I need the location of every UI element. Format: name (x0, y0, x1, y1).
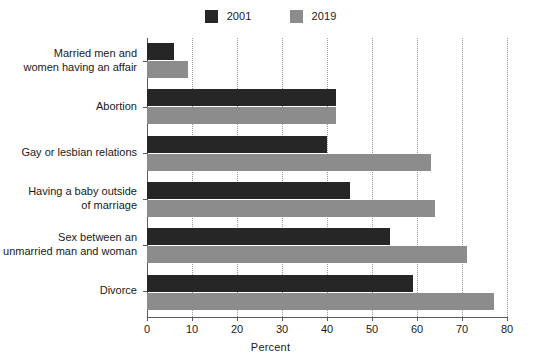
legend-item-2001: 2001 (205, 10, 252, 23)
x-axis-title: Percent (0, 341, 541, 353)
x-axis-tick-20 (237, 317, 238, 321)
x-axis-tick-10 (192, 317, 193, 321)
legend-label-2001: 2001 (227, 10, 252, 23)
y-axis-label-3-line-1: of marriage (0, 199, 137, 213)
x-axis-tick-60 (417, 317, 418, 321)
y-axis-label-0-line-1: women having an affair (0, 61, 137, 75)
legend-swatch-2001 (205, 10, 218, 23)
bar-2019 (147, 246, 467, 263)
y-axis-label-2-line-0: Gay or lesbian relations (0, 146, 137, 160)
y-axis-label-2: Gay or lesbian relations (0, 146, 137, 160)
x-axis-tick-30 (282, 317, 283, 321)
bar-2019 (147, 200, 435, 217)
y-axis-label-4-line-1: unmarried man and woman (0, 245, 137, 259)
x-axis-tick-80 (507, 317, 508, 321)
legend-label-2019: 2019 (312, 10, 337, 23)
y-axis-label-3: Having a baby outside of marriage (0, 185, 137, 212)
x-axis-tick-label-20: 20 (217, 323, 257, 336)
bar-2019 (147, 293, 494, 310)
legend-item-2019: 2019 (290, 10, 337, 23)
plot-area (147, 38, 507, 316)
y-axis-label-5-line-0: Divorce (0, 284, 137, 298)
bar-2019 (147, 61, 188, 78)
y-axis-label-0: Married men and women having an affair (0, 47, 137, 74)
x-axis-tick-label-40: 40 (307, 323, 347, 336)
bar-group (147, 43, 507, 79)
y-axis-label-3-line-0: Having a baby outside (0, 185, 137, 199)
bar-2019 (147, 154, 431, 171)
x-axis-tick-label-30: 30 (262, 323, 302, 336)
x-axis-tick-50 (372, 317, 373, 321)
y-axis-label-0-line-0: Married men and (0, 47, 137, 61)
y-axis-label-4-line-0: Sex between an (0, 231, 137, 245)
x-axis-tick-0 (147, 317, 148, 321)
bar-2001 (147, 136, 327, 153)
y-axis-label-1: Abortion (0, 100, 137, 114)
bar-2001 (147, 275, 413, 292)
chart-legend: 2001 2019 (0, 10, 541, 23)
x-axis-tick-70 (462, 317, 463, 321)
y-axis-labels: Married men and women having an affair A… (0, 38, 143, 317)
y-axis-label-1-line-0: Abortion (0, 100, 137, 114)
legend-swatch-2019 (290, 10, 303, 23)
x-axis-tick-label-50: 50 (352, 323, 392, 336)
bar-group (147, 182, 507, 218)
x-axis-tick-40 (327, 317, 328, 321)
y-axis-label-4: Sex between an unmarried man and woman (0, 231, 137, 258)
y-axis-label-5: Divorce (0, 284, 137, 298)
bar-group (147, 275, 507, 311)
x-axis-tick-label-70: 70 (442, 323, 482, 336)
bar-2001 (147, 182, 350, 199)
x-axis-tick-label-10: 10 (172, 323, 212, 336)
bar-2001 (147, 228, 390, 245)
bar-group (147, 89, 507, 125)
x-axis-tick-label-80: 80 (487, 323, 527, 336)
bar-2001 (147, 89, 336, 106)
x-axis-tick-label-0: 0 (127, 323, 167, 336)
gridline-80 (507, 38, 508, 317)
bar-group (147, 136, 507, 172)
bar-2019 (147, 107, 336, 124)
bar-chart: 2001 2019 Married men and women having a… (0, 0, 541, 363)
bar-group (147, 228, 507, 264)
x-axis-tick-label-60: 60 (397, 323, 437, 336)
bar-2001 (147, 43, 174, 60)
